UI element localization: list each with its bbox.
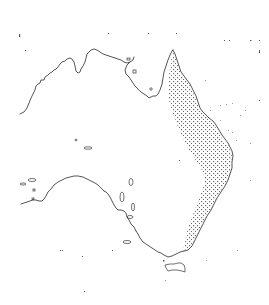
island-carpentaria	[150, 88, 152, 90]
island-sa-lake-2	[132, 203, 135, 211]
island-wa-lake-3	[33, 189, 35, 191]
island-wa-lake-2	[20, 183, 26, 185]
island-nt-lake	[84, 147, 92, 149]
island-sa-lake-3	[129, 179, 133, 186]
island-nt-dot	[75, 139, 77, 141]
island-wa-lake-1	[28, 179, 36, 182]
island-sa-lake-1	[120, 192, 124, 202]
island-sa-lake-4	[127, 216, 133, 219]
coastline-northwest	[20, 49, 134, 114]
range-region	[168, 52, 232, 250]
coastline-gulf	[125, 50, 173, 98]
island-tasmania	[165, 263, 185, 272]
coastline-south-east	[136, 231, 184, 257]
island-gulf	[133, 70, 136, 73]
island-kangaroo	[123, 241, 131, 244]
australia-range-map	[0, 0, 269, 305]
island-arnhem	[127, 58, 130, 60]
island-wa-lake-4	[32, 198, 34, 200]
